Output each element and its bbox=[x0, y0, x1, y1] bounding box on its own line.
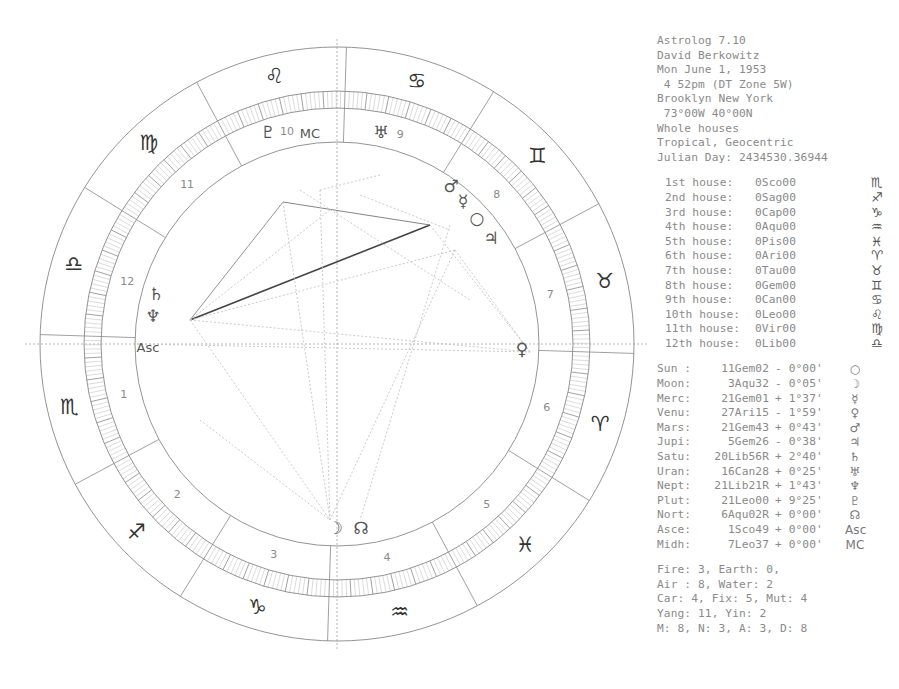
planet-glyph-icon: MC bbox=[300, 126, 320, 141]
degree-tick bbox=[303, 578, 305, 595]
degree-tick bbox=[358, 579, 360, 596]
degree-tick bbox=[468, 134, 477, 148]
house-label: 2nd house: bbox=[657, 191, 755, 206]
house-row: 5th house:0Pis00♓ bbox=[657, 235, 899, 250]
degree-tick bbox=[525, 191, 539, 201]
degree-tick bbox=[92, 402, 108, 406]
sign-boundary bbox=[560, 204, 599, 225]
degree-tick bbox=[151, 172, 163, 184]
degree-tick bbox=[560, 420, 576, 425]
degree-tick bbox=[520, 184, 533, 195]
degree-tick bbox=[86, 373, 103, 375]
degree-tick bbox=[281, 574, 285, 591]
house-cusp: 0Tau00 bbox=[755, 264, 867, 279]
degree-tick bbox=[504, 510, 516, 522]
planet-position-list: Sun :11Gem02- 0°00'○Moon:3Aqu32- 0°05'☽M… bbox=[657, 362, 899, 552]
chart-name: David Berkowitz bbox=[657, 49, 899, 64]
degree-tick bbox=[189, 535, 199, 549]
chart-time: 4 52pm (DT Zone 5W) bbox=[657, 78, 899, 93]
degree-tick bbox=[146, 179, 159, 190]
degree-tick bbox=[285, 575, 288, 592]
degree-tick bbox=[320, 579, 321, 596]
degree-tick bbox=[122, 211, 136, 220]
planet-glyph-icon: ♃ bbox=[483, 228, 498, 248]
sign-icon: ♒ bbox=[867, 220, 887, 235]
degree-tick bbox=[461, 129, 470, 143]
planet-icon: ♂ bbox=[845, 421, 865, 436]
degree-tick bbox=[84, 357, 101, 358]
house-cusp: 0Lib00 bbox=[755, 337, 867, 352]
sign-icon: ♉ bbox=[867, 264, 887, 279]
degree-tick bbox=[292, 95, 295, 112]
degree-tick bbox=[415, 567, 421, 583]
house-row: 1st house:0Sco00♏ bbox=[657, 176, 899, 191]
degree-tick bbox=[262, 102, 267, 118]
degree-tick bbox=[196, 540, 205, 554]
planet-name: Merc: bbox=[657, 392, 705, 407]
sign-icon: ♑ bbox=[867, 206, 887, 221]
degree-tick bbox=[533, 475, 547, 484]
degree-tick bbox=[518, 495, 531, 506]
zodiac-sign-icon: ♌ bbox=[265, 64, 284, 88]
planet-position: 16Can28 bbox=[705, 465, 775, 480]
degree-tick bbox=[489, 524, 500, 537]
degree-tick bbox=[125, 473, 139, 482]
zodiac-sign-icon: ♐ bbox=[127, 520, 146, 544]
degree-tick bbox=[298, 577, 301, 594]
chart-info-panel: Astrolog 7.10 David Berkowitz Mon June 1… bbox=[657, 34, 899, 636]
degree-tick bbox=[365, 93, 367, 110]
degree-tick bbox=[288, 96, 291, 113]
degree-tick bbox=[255, 567, 260, 583]
house-label: 10th house: bbox=[657, 308, 755, 323]
degree-tick bbox=[448, 552, 456, 567]
degree-tick bbox=[264, 570, 269, 586]
sign-boundary bbox=[197, 82, 218, 121]
degree-tick bbox=[94, 410, 110, 415]
degree-tick bbox=[185, 533, 195, 547]
degree-tick bbox=[573, 356, 590, 357]
degree-tick bbox=[507, 507, 519, 519]
planet-name: Mars: bbox=[657, 421, 705, 436]
degree-tick bbox=[85, 327, 102, 328]
planet-latitude: + 1°43' bbox=[775, 479, 845, 494]
planet-position: 27Ari15 bbox=[705, 406, 775, 421]
degree-tick bbox=[267, 101, 272, 117]
degree-tick bbox=[174, 151, 185, 164]
planet-name: Satu: bbox=[657, 450, 705, 465]
degree-tick bbox=[565, 404, 581, 408]
planet-glyph-icon: ♂ bbox=[443, 176, 458, 196]
house-cusp bbox=[129, 439, 159, 455]
degree-tick bbox=[154, 169, 166, 181]
degree-tick bbox=[191, 137, 201, 151]
degree-tick bbox=[572, 326, 589, 327]
degree-tick bbox=[195, 135, 205, 149]
degree-tick bbox=[118, 463, 133, 472]
planet-icon: ○ bbox=[845, 362, 865, 377]
degree-tick bbox=[215, 551, 223, 566]
degree-tick bbox=[184, 142, 194, 156]
degree-tick bbox=[275, 99, 279, 115]
degree-tick bbox=[503, 165, 515, 177]
planet-position: 21Leo00 bbox=[705, 494, 775, 509]
planet-position: 5Gem26 bbox=[705, 435, 775, 450]
chart-place: Brooklyn New York bbox=[657, 92, 899, 107]
house-row: 8th house:0Gem00♊ bbox=[657, 279, 899, 294]
planet-name: Jupi: bbox=[657, 435, 705, 450]
degree-tick bbox=[284, 97, 288, 114]
degree-tick bbox=[98, 422, 114, 428]
house-number: 5 bbox=[483, 498, 490, 511]
degree-tick bbox=[546, 454, 561, 462]
degree-tick bbox=[350, 580, 351, 597]
degree-tick bbox=[395, 573, 399, 589]
degree-tick bbox=[375, 577, 378, 594]
planet-name: Plut: bbox=[657, 494, 705, 509]
planet-position: 11Gem02 bbox=[705, 362, 775, 377]
degree-tick bbox=[87, 378, 104, 380]
degree-tick bbox=[572, 321, 589, 323]
degree-tick bbox=[290, 576, 293, 593]
aspect-line-minor bbox=[430, 225, 530, 352]
degree-tick bbox=[373, 94, 376, 111]
planet-icon: ♄ bbox=[845, 450, 865, 465]
zodiac-sign-icon: ♊ bbox=[528, 144, 547, 168]
degree-tick bbox=[566, 400, 583, 404]
